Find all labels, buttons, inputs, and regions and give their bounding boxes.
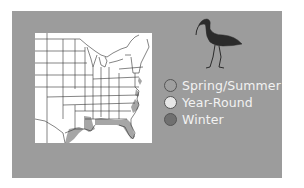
legend-label: Spring/Summer: [182, 78, 281, 93]
us-states-map: [35, 33, 152, 143]
range-map-card: Spring/Summer Year-Round Winter: [12, 11, 282, 178]
legend-label: Year-Round: [182, 95, 253, 110]
circle-swatch-icon: [164, 96, 177, 109]
legend-item-spring-summer: Spring/Summer: [164, 77, 281, 94]
circle-swatch-icon: [164, 79, 177, 92]
legend: Spring/Summer Year-Round Winter: [164, 77, 281, 128]
circle-swatch-icon: [164, 113, 177, 126]
range-map: [35, 33, 152, 143]
legend-item-year-round: Year-Round: [164, 94, 281, 111]
legend-label: Winter: [182, 112, 224, 127]
ibis-bird-icon: [195, 13, 245, 71]
legend-item-winter: Winter: [164, 111, 281, 128]
